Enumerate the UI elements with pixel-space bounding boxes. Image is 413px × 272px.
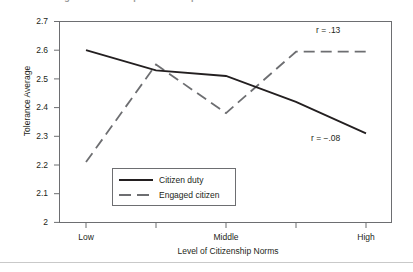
y-axis-title: Tolerance Average xyxy=(22,41,32,161)
figure-container: Figure: Citizenship norms and political … xyxy=(0,0,413,272)
y-tick-label-7: 2 xyxy=(18,218,48,227)
series-line-engaged-citizen xyxy=(86,52,366,162)
y-tick-label-5: 2.2 xyxy=(18,161,48,170)
annotation-r-citizen-duty: r = −.08 xyxy=(311,133,340,143)
x-tick-label-low: Low xyxy=(56,233,116,242)
y-axis-ticks xyxy=(54,22,60,223)
legend-item-engaged-citizen: Engaged citizen xyxy=(119,188,220,202)
legend: Citizen duty Engaged citizen xyxy=(112,168,236,206)
annotation-r-engaged-citizen: r = .13 xyxy=(316,25,340,35)
x-axis-title: Level of Citizenship Norms xyxy=(48,246,408,256)
legend-item-citizen-duty: Citizen duty xyxy=(119,173,203,187)
legend-label-citizen-duty: Citizen duty xyxy=(159,175,203,185)
x-tick-label-middle: Middle xyxy=(196,233,256,242)
legend-swatch-dashed xyxy=(119,190,153,200)
legend-label-engaged-citizen: Engaged citizen xyxy=(159,190,220,200)
x-axis-ticks xyxy=(86,223,366,229)
legend-swatch-solid xyxy=(119,175,153,185)
bottom-divider xyxy=(0,262,413,263)
plot-area xyxy=(0,0,413,272)
x-tick-label-high: High xyxy=(336,233,396,242)
y-tick-label-6: 2.1 xyxy=(18,189,48,198)
y-tick-label-0: 2.7 xyxy=(18,17,48,26)
series-line-citizen-duty xyxy=(86,50,366,133)
